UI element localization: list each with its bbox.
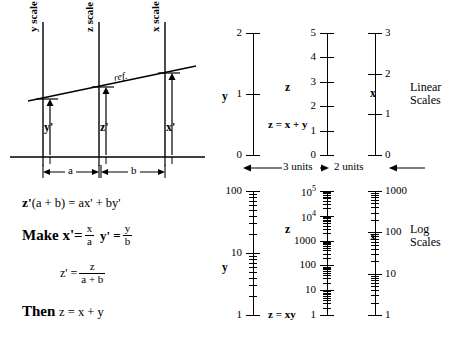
axis-tick <box>320 33 334 34</box>
axis-tick <box>371 239 379 240</box>
axis-tick <box>320 241 334 242</box>
equation-line-3: z' =za + b <box>60 262 107 287</box>
axis-tick-label: 2 <box>385 68 391 79</box>
axis-tick <box>371 242 379 243</box>
equation-2-yprime: y' = <box>100 228 121 243</box>
axis-tick-label: 100 <box>210 259 316 270</box>
axis-tick <box>323 221 331 222</box>
axis-tick-label: 105 <box>210 185 316 198</box>
axis-tick-label: 3 <box>210 76 316 87</box>
axis-tick-label: 0 <box>385 149 391 160</box>
log-z-variable-label: z <box>285 223 290 235</box>
axis-tick <box>323 278 331 279</box>
axis-tick <box>323 267 331 268</box>
linear-z-axis-line <box>327 33 328 155</box>
axis-tick <box>371 220 379 221</box>
log-scales-title-line1: Log <box>410 222 429 236</box>
log-scales-title: Log Scales <box>410 223 441 250</box>
axis-tick <box>371 303 379 304</box>
axis-tick <box>368 274 382 275</box>
axis-tick-label: 100 <box>385 226 402 237</box>
axis-tick <box>323 198 331 199</box>
axis-tick-label: 5 <box>210 27 316 38</box>
axis-tick <box>320 216 334 217</box>
axis-tick <box>371 200 379 201</box>
equation-4-lead: Then <box>22 303 55 319</box>
axis-tick-label: 1 <box>210 309 316 320</box>
axis-tick <box>371 290 379 291</box>
axis-tick <box>323 296 331 297</box>
axis-tick <box>249 223 257 224</box>
axis-tick <box>371 295 379 296</box>
axis-tick-label: 1 <box>385 108 391 119</box>
axis-tick-label: 10 <box>210 284 316 295</box>
axis-tick <box>323 201 331 202</box>
fraction-z-over-a-plus-b: za + b <box>79 261 105 286</box>
x-prime-label: x' <box>166 120 175 135</box>
axis-tick <box>249 205 257 206</box>
axis-tick <box>368 191 382 192</box>
axis-tick <box>323 293 331 294</box>
axis-tick <box>323 229 331 230</box>
y-prime-label: y' <box>44 120 53 135</box>
x-prime-arrow <box>169 73 176 155</box>
axis-tick-label: 1 <box>210 125 316 136</box>
equation-line-4: Then z = x + y <box>22 303 104 320</box>
log-scales-title-line2: Scales <box>410 235 441 249</box>
z-scale-caption: z scale <box>83 2 95 32</box>
axis-tick <box>323 273 331 274</box>
axis-tick <box>323 233 331 234</box>
axis-tick <box>323 271 331 272</box>
axis-tick <box>320 57 334 58</box>
axis-tick <box>246 253 260 254</box>
linear-scales-title: Linear Scales <box>410 81 441 108</box>
axis-tick <box>320 82 334 83</box>
axis-tick-label: 1 <box>210 88 242 99</box>
axis-tick <box>323 300 331 301</box>
axis-tick <box>323 298 331 299</box>
axis-tick <box>323 294 331 295</box>
equation-line-1: z'(a + b) = ax' + by' <box>22 195 121 211</box>
axis-tick <box>323 197 331 198</box>
axis-tick <box>323 269 331 270</box>
axis-tick <box>323 283 331 284</box>
axis-tick <box>371 236 379 237</box>
log-scales-panel: y z x z = xy Log Scales 1101001101001000… <box>210 175 466 339</box>
axis-tick <box>371 276 379 277</box>
axis-tick-label: 10 <box>385 268 396 279</box>
axis-tick <box>371 280 379 281</box>
axis-tick <box>323 243 331 244</box>
axis-tick <box>371 283 379 284</box>
axis-tick <box>323 254 331 255</box>
fraction-x-over-a-numerator: x <box>85 223 95 235</box>
equation-4-relation: z = x + y <box>59 305 104 319</box>
axis-tick <box>368 315 382 316</box>
axis-tick <box>323 195 331 196</box>
axis-tick <box>323 223 331 224</box>
axis-tick <box>371 197 379 198</box>
axis-tick <box>323 303 331 304</box>
axis-tick <box>371 286 379 287</box>
axis-tick <box>323 193 331 194</box>
axis-tick <box>323 244 331 245</box>
axis-tick-label: 1000 <box>210 235 316 246</box>
axis-tick <box>371 213 379 214</box>
axis-tick-label: 1000 <box>385 185 407 196</box>
span-label-3-units: 3 units <box>283 160 313 172</box>
axis-tick <box>323 217 331 218</box>
axis-tick <box>323 308 331 309</box>
fraction-a-plus-b-denominator: a + b <box>79 273 105 286</box>
fraction-y-over-b-denominator: b <box>123 235 133 248</box>
axis-tick <box>323 291 331 292</box>
x-scale-caption: x scale <box>149 1 161 32</box>
axis-tick-label: 1 <box>385 309 391 320</box>
axis-tick <box>371 207 379 208</box>
axis-tick-label: 3 <box>385 27 391 38</box>
equation-2-lead: Make <box>22 227 59 243</box>
linear-scales-title-line2: Scales <box>410 93 441 107</box>
axis-tick <box>323 268 331 269</box>
linear-scales-panel: y z x z = x + y Linear Scales 3 units 2 <box>210 0 466 175</box>
fraction-x-over-a-denominator: a <box>85 235 95 248</box>
linear-scales-title-line1: Linear <box>410 80 441 94</box>
axis-tick-label: 104 <box>210 210 316 223</box>
